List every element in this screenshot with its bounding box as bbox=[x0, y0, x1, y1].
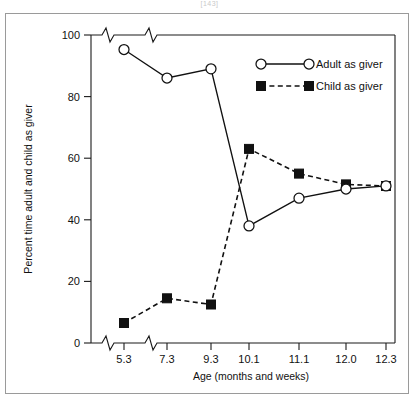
legend-label-child: Child as giver bbox=[316, 80, 383, 92]
y-axis-tick-labels: 100 80 60 40 20 0 bbox=[62, 29, 80, 349]
x-tick-label-10-1: 10.1 bbox=[238, 353, 259, 365]
y-tick-label-100: 100 bbox=[62, 29, 80, 41]
page-header-number: [143] bbox=[0, 0, 419, 8]
x-axis-tick-labels: 5.3 7.3 9.3 10.1 11.1 12.0 12.3 bbox=[116, 353, 396, 365]
legend-marker-child-filled-square-end-icon bbox=[305, 82, 314, 91]
data-point-adult-7-3 bbox=[162, 73, 172, 83]
line-chart: 100 80 60 40 20 0 Percent time adult and… bbox=[6, 14, 408, 393]
x-tick-label-12-0: 12.0 bbox=[335, 353, 356, 365]
data-point-adult-12-3 bbox=[381, 181, 391, 191]
data-point-adult-9-3 bbox=[206, 64, 216, 74]
y-tick-label-40: 40 bbox=[68, 214, 80, 226]
data-point-child-10-1 bbox=[245, 144, 254, 153]
x-axis-title: Age (months and weeks) bbox=[193, 370, 309, 382]
y-tick-label-80: 80 bbox=[68, 91, 80, 103]
series-child-as-giver bbox=[120, 144, 391, 327]
y-tick-label-20: 20 bbox=[68, 275, 80, 287]
data-point-adult-12-0 bbox=[341, 184, 351, 194]
legend-marker-child-filled-square-icon bbox=[257, 82, 266, 91]
data-point-adult-11-1 bbox=[294, 193, 304, 203]
figure-root: [143] bbox=[0, 0, 419, 403]
data-point-child-9-3 bbox=[207, 300, 216, 309]
legend-marker-adult-open-circle-icon bbox=[256, 59, 266, 69]
y-tick-label-0: 0 bbox=[74, 337, 80, 349]
legend-label-adult: Adult as giver bbox=[316, 58, 383, 70]
y-axis-ticks bbox=[84, 35, 91, 343]
x-tick-label-11-1: 11.1 bbox=[289, 353, 310, 365]
data-point-child-11-1 bbox=[295, 169, 304, 178]
data-point-adult-5-3 bbox=[119, 45, 129, 55]
x-tick-label-12-3: 12.3 bbox=[375, 353, 396, 365]
data-point-adult-10-1 bbox=[244, 221, 254, 231]
legend-item-adult: Adult as giver bbox=[256, 58, 383, 70]
series-adult-as-giver bbox=[119, 45, 391, 231]
legend-item-child: Child as giver bbox=[257, 80, 383, 92]
x-axis-ticks bbox=[124, 343, 386, 350]
figure-frame: 100 80 60 40 20 0 Percent time adult and… bbox=[5, 13, 409, 394]
data-point-child-7-3 bbox=[163, 294, 172, 303]
x-tick-label-5-3: 5.3 bbox=[116, 353, 131, 365]
x-tick-label-7-3: 7.3 bbox=[159, 353, 174, 365]
x-tick-label-9-3: 9.3 bbox=[203, 353, 218, 365]
y-tick-label-60: 60 bbox=[68, 152, 80, 164]
y-axis-title: Percent time adult and child as giver bbox=[22, 104, 34, 274]
chart-legend: Adult as giver Child as giver bbox=[256, 58, 383, 92]
data-point-child-5-3 bbox=[120, 319, 129, 328]
legend-marker-adult-open-circle-end-icon bbox=[304, 59, 314, 69]
